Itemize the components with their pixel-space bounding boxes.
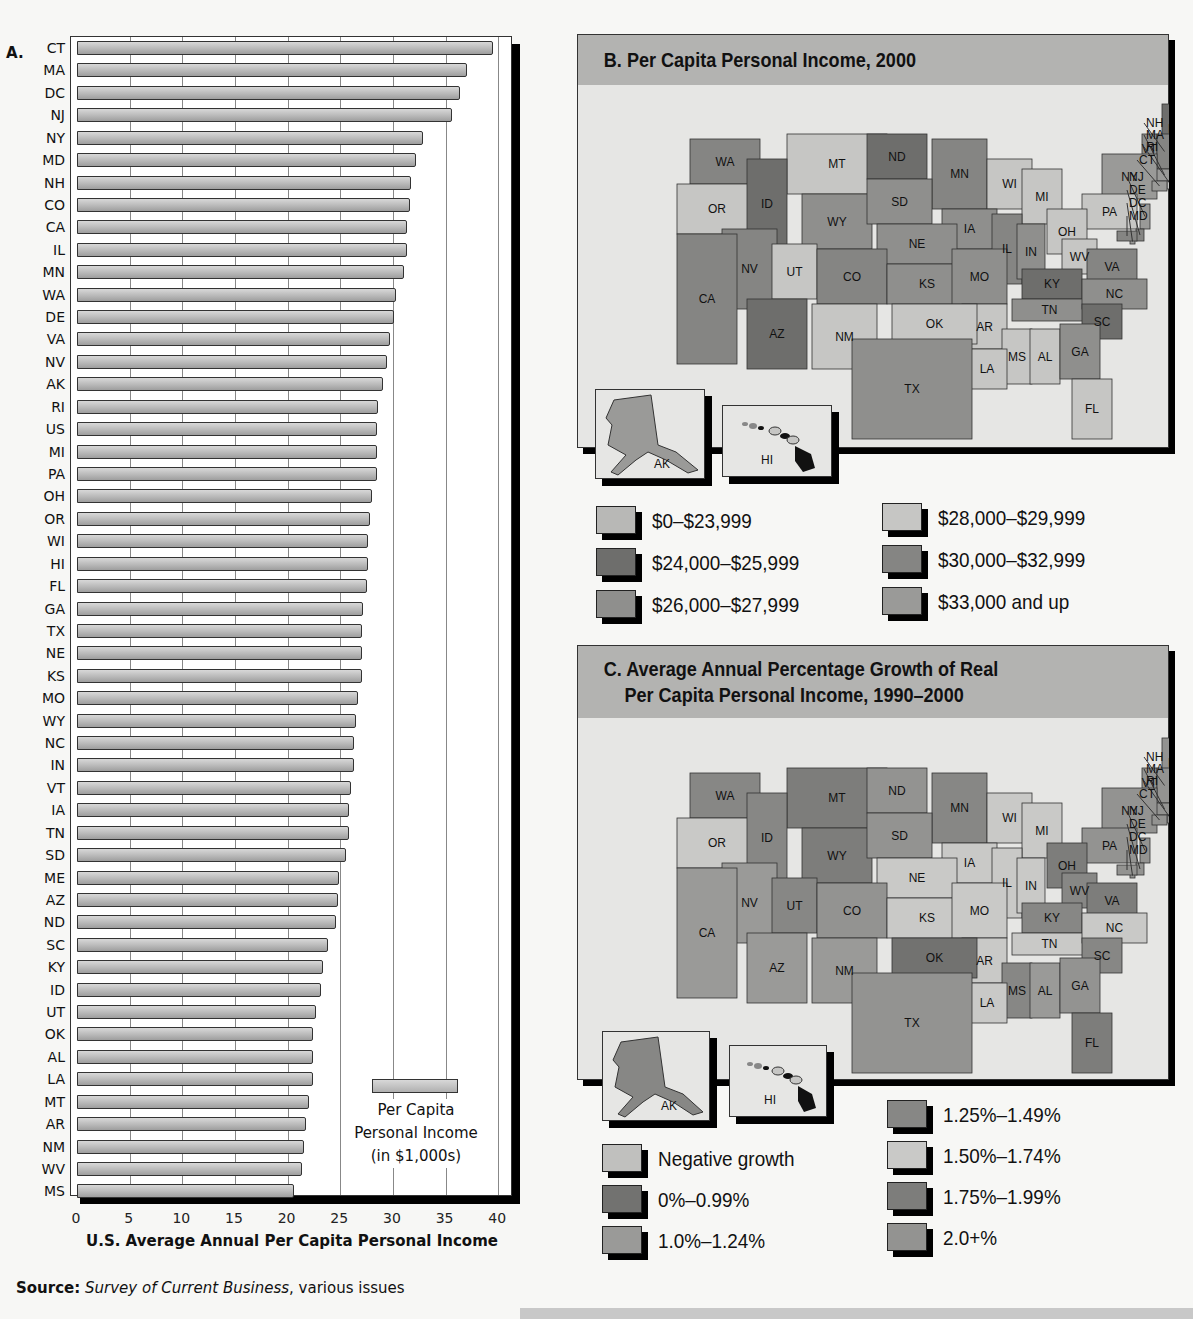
alaska-shape: AK — [596, 390, 704, 478]
hawaii-shape: HI — [723, 406, 831, 476]
category-label: DE — [5, 308, 65, 326]
legend-label: $24,000–$25,999 — [652, 551, 799, 575]
category-label: US — [5, 420, 65, 438]
bar-row: DE — [71, 306, 511, 328]
bar-row: SD — [71, 844, 511, 866]
state-label: FL — [1085, 1036, 1099, 1050]
legend-swatch — [887, 1100, 927, 1128]
bar — [77, 220, 407, 234]
svg-text:AK: AK — [654, 457, 670, 471]
bar — [77, 41, 493, 55]
state-label: FL — [1085, 402, 1099, 416]
legend-label: $0–$23,999 — [652, 509, 752, 533]
x-tick-label: 30 — [377, 1210, 407, 1226]
state-label: MS — [1008, 984, 1026, 998]
legend-swatch — [596, 590, 636, 618]
state-label: IN — [1025, 245, 1037, 259]
legend-label: $33,000 and up — [938, 590, 1069, 614]
state-label: MS — [1008, 350, 1026, 364]
bar-row: VT — [71, 777, 511, 799]
legend-swatch — [596, 506, 636, 534]
bar-row: NH — [71, 172, 511, 194]
bar — [77, 579, 367, 593]
bar — [77, 63, 467, 77]
category-label: NM — [5, 1138, 65, 1156]
category-label: SC — [5, 936, 65, 954]
state-label: GA — [1071, 979, 1088, 993]
category-label: WA — [5, 286, 65, 304]
source-suffix: , various issues — [289, 1279, 405, 1297]
category-label: AK — [5, 375, 65, 393]
category-label: CA — [5, 218, 65, 236]
x-tick-label: 0 — [61, 1210, 91, 1226]
inset-alaska-c: AK — [602, 1031, 710, 1121]
legend-swatch — [882, 503, 922, 531]
bar — [77, 288, 396, 302]
state-label: MT — [828, 791, 846, 805]
category-label: MT — [5, 1093, 65, 1111]
state-label: ND — [888, 784, 906, 798]
bar — [77, 781, 351, 795]
state-label: AR — [976, 320, 993, 334]
x-tick-label: 35 — [430, 1210, 460, 1226]
category-label: TX — [5, 622, 65, 640]
bar — [77, 1005, 316, 1019]
category-label: WV — [5, 1160, 65, 1178]
state-label: OK — [926, 951, 943, 965]
category-label: MD — [5, 151, 65, 169]
bar-row: WA — [71, 284, 511, 306]
legend-line: Personal Income — [341, 1122, 491, 1145]
state-label: MI — [1035, 824, 1048, 838]
bar — [77, 1072, 313, 1086]
state-label: ME — [1168, 756, 1169, 770]
legend-label: $28,000–$29,999 — [938, 506, 1085, 530]
state-label: CA — [699, 292, 716, 306]
state-label: NC — [1106, 921, 1124, 935]
legend-swatch — [602, 1144, 642, 1172]
legend-line: (in $1,000s) — [341, 1145, 491, 1168]
category-label: SD — [5, 846, 65, 864]
bar-row: MO — [71, 687, 511, 709]
category-label: UT — [5, 1003, 65, 1021]
state-label: SC — [1094, 949, 1111, 963]
state-label: OH — [1058, 225, 1076, 239]
state-label: KY — [1044, 911, 1060, 925]
state-label: TX — [904, 1016, 919, 1030]
state-label: DC — [1129, 830, 1147, 844]
state-label: NM — [835, 330, 854, 344]
bar-row: PA — [71, 463, 511, 485]
state-label: IL — [1002, 242, 1012, 256]
bar — [77, 938, 328, 952]
category-label: ND — [5, 913, 65, 931]
legend-label: 2.0+% — [943, 1226, 997, 1250]
alaska-shape: AK — [603, 1032, 709, 1120]
bar — [77, 1050, 313, 1064]
state-label: IA — [964, 222, 975, 236]
category-label: MO — [5, 689, 65, 707]
legend-swatch — [602, 1226, 642, 1254]
state-label: ID — [761, 831, 773, 845]
state-label: WI — [1002, 177, 1017, 191]
state-label: SC — [1094, 315, 1111, 329]
bar-row: SC — [71, 934, 511, 956]
legend-label: 0%–0.99% — [658, 1188, 749, 1212]
state-label: SD — [891, 195, 908, 209]
legend-swatch — [887, 1182, 927, 1210]
bar — [77, 176, 411, 190]
bar — [77, 1095, 309, 1109]
category-label: VA — [5, 330, 65, 348]
bar-row: DC — [71, 82, 511, 104]
bar — [77, 534, 368, 548]
category-label: ME — [5, 869, 65, 887]
svg-text:AK: AK — [661, 1099, 677, 1113]
x-tick-label: 10 — [166, 1210, 196, 1226]
state-label: NJ — [1129, 170, 1144, 184]
legend-swatch — [602, 1185, 642, 1213]
inset-alaska-b: AK — [595, 389, 705, 479]
bar-row: OH — [71, 485, 511, 507]
source-title: Survey of Current Business — [85, 1279, 289, 1297]
category-label: NE — [5, 644, 65, 662]
bar-row: GA — [71, 598, 511, 620]
state-label: WY — [827, 215, 846, 229]
inset-hawaii-c: HI — [729, 1045, 827, 1117]
